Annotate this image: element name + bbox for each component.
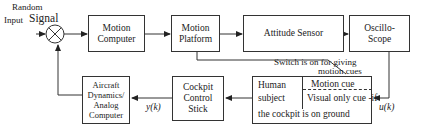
aircraft-line3: Analog <box>93 100 118 110</box>
visual-cue-label: Visual only cue -if <box>307 93 377 104</box>
u-signal-label: u(k) <box>379 102 394 112</box>
cockpit-stick-line2: Control <box>183 93 212 104</box>
summing-junction-icon <box>46 25 64 43</box>
cockpit-stick-line3: Stick <box>188 104 208 115</box>
motion-platform-line2: Platform <box>179 34 212 45</box>
human-subject-divider <box>302 76 303 109</box>
aircraft-line2: Dynamics/ <box>88 90 125 100</box>
motion-computer-block: Motion Computer <box>88 15 145 52</box>
attitude-sensor-block: Attitude Sensor <box>243 15 344 52</box>
oscilloscope-line2: Scope <box>368 34 391 45</box>
arrow-scope-to-human <box>374 52 389 98</box>
attitude-sensor-label: Attitude Sensor <box>264 28 323 39</box>
motion-cue-label: Motion cue <box>311 79 355 90</box>
motion-computer-line1: Motion <box>103 23 131 34</box>
input-label-signal: Signal <box>29 12 58 24</box>
motion-platform-block: Motion Platform <box>171 15 220 52</box>
motion-platform-line1: Motion <box>182 23 210 34</box>
oscilloscope-line1: Oscillo- <box>364 23 395 34</box>
cockpit-stick-block: Cockpit Control Stick <box>172 76 224 121</box>
switch-note-line2: motion cues <box>318 66 362 76</box>
cockpit-ground-label: the cockpit is on ground <box>258 109 350 120</box>
motion-computer-line2: Computer <box>98 34 136 45</box>
aircraft-dynamics-block: Aircraft Dynamics/ Analog Computer <box>82 76 130 124</box>
y-signal-label: y(k) <box>146 102 161 112</box>
aircraft-line1: Aircraft <box>93 80 120 90</box>
feedback-arrow <box>58 45 82 95</box>
human-subject-block: Human subject Motion cue Visual only cue… <box>252 76 372 124</box>
aircraft-line4: Computer <box>89 110 123 120</box>
cockpit-stick-line1: Cockpit <box>183 82 213 93</box>
oscilloscope-block: Oscillo- Scope <box>349 15 410 52</box>
input-label-random: Random <box>12 2 43 12</box>
human-label-1: Human <box>258 80 286 91</box>
human-label-2: subject <box>258 93 285 104</box>
input-label-input: Input <box>4 15 23 25</box>
